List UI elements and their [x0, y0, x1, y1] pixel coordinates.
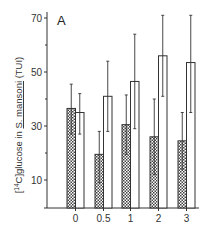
- bar-chart: 1030507000.5123 A [14C]glucose in S. man…: [0, 0, 214, 236]
- axes: 1030507000.5123: [31, 12, 199, 224]
- x-tick-label: 3: [184, 213, 190, 224]
- x-tick-label: 0.5: [97, 213, 111, 224]
- x-tick-label: 0: [73, 213, 79, 224]
- y-axis-label: [14C]glucose in S. mansoni (TUI): [13, 57, 24, 194]
- bars: [67, 15, 195, 208]
- panel-label: A: [57, 13, 66, 28]
- y-tick-label: 50: [31, 67, 43, 78]
- x-tick-label: 2: [156, 213, 162, 224]
- y-tick-label: 70: [31, 13, 43, 24]
- x-tick-label: 1: [128, 213, 134, 224]
- y-tick-label: 30: [31, 121, 43, 132]
- y-tick-label: 10: [31, 175, 43, 186]
